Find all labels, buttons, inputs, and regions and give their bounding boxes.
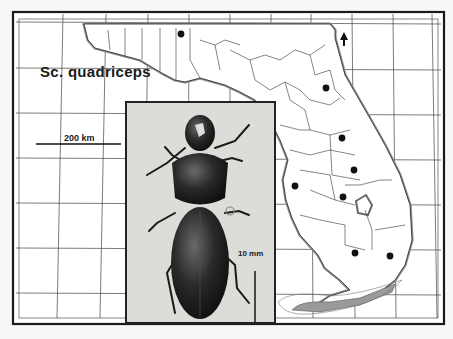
- distribution-map-figure: Sc. quadriceps 200 km 10 mm: [0, 0, 453, 339]
- photo-scale-label: 10 mm: [238, 249, 263, 258]
- species-label: Sc. quadriceps: [40, 63, 151, 80]
- beetle-image: [127, 103, 274, 322]
- specimen-photo-inset: [125, 101, 276, 324]
- map-scale-label: 200 km: [64, 133, 95, 143]
